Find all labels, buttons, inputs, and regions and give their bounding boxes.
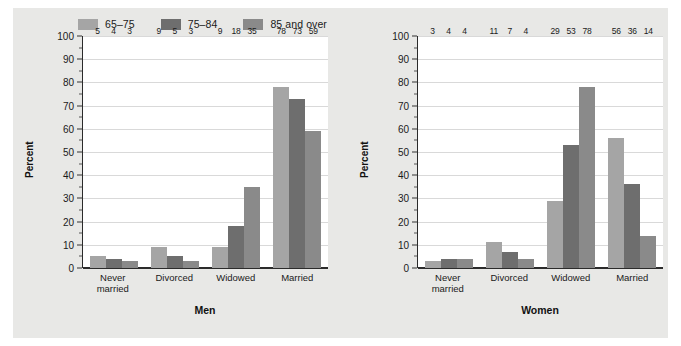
bar-group: 295378 [547,36,595,268]
x-axis-label-line: Married [602,272,662,283]
bar[interactable]: 56 [608,138,624,268]
y-axis-tick-label: 40 [369,170,409,181]
bar[interactable]: 73 [289,99,305,268]
bar[interactable]: 4 [518,259,534,268]
legend-swatch-75-84 [161,19,181,30]
bar[interactable]: 3 [183,261,199,268]
bar[interactable]: 11 [486,242,502,268]
x-axis-tick-label: Married [267,272,327,294]
bar[interactable]: 5 [90,256,106,268]
bar-value-label: 36 [628,27,637,36]
x-axis-labels: NevermarriedDivorcedWidowedMarried [82,272,328,294]
bar-value-label: 35 [247,27,256,36]
y-axis-tick-label: 90 [34,54,74,65]
bar-wrapper: 3 [183,36,199,268]
y-axis-tick-label: 30 [369,193,409,204]
bar-value-label: 29 [550,27,559,36]
bar-value-label: 18 [231,27,240,36]
bar[interactable]: 29 [547,201,563,268]
bar-wrapper: 73 [289,36,305,268]
y-axis-tick-label: 70 [34,100,74,111]
plot-area: 3441174295378563614 [417,36,663,268]
bar[interactable]: 78 [579,87,595,268]
y-axis-tick-label: 50 [369,147,409,158]
bar-value-label: 4 [446,27,451,36]
y-axis-tick-label: 60 [34,123,74,134]
y-axis-tick-label: 80 [34,77,74,88]
x-axis-labels: NevermarriedDivorcedWidowedMarried [417,272,663,294]
bar-wrapper: 4 [457,36,473,268]
bar-wrapper: 5 [90,36,106,268]
bar-wrapper: 59 [305,36,321,268]
bar[interactable]: 7 [502,252,518,268]
bar-wrapper: 3 [425,36,441,268]
bar-wrapper: 56 [608,36,624,268]
bar-wrapper: 3 [122,36,138,268]
bar[interactable]: 3 [425,261,441,268]
bar-value-label: 3 [127,27,132,36]
chart-figure: 65–7575–8485 and over Percent01020304050… [0,0,681,346]
bar[interactable]: 78 [273,87,289,268]
bar-wrapper: 4 [518,36,534,268]
bar[interactable]: 35 [244,187,260,268]
x-axis-tick-label: Widowed [206,272,266,294]
bar-value-label: 3 [189,27,194,36]
bar[interactable]: 4 [457,259,473,268]
bar-value-label: 53 [566,27,575,36]
bar-value-label: 11 [489,27,498,36]
bar-wrapper: 29 [547,36,563,268]
bar-value-label: 9 [157,27,162,36]
bar-wrapper: 78 [579,36,595,268]
bar-value-label: 78 [277,27,286,36]
bar-groups: 3441174295378563614 [418,36,663,268]
x-axis-label-line: married [418,283,478,294]
bar[interactable]: 36 [624,184,640,268]
bar[interactable]: 9 [151,247,167,268]
bar[interactable]: 4 [441,259,457,268]
y-axis: 0102030405060708090100 [42,36,82,268]
y-axis-tick-label: 0 [34,263,74,274]
bar-value-label: 4 [462,27,467,36]
bar[interactable]: 59 [305,131,321,268]
bar-value-label: 4 [111,27,116,36]
y-axis-tick-label: 80 [369,77,409,88]
chart-panel-women: Percent010203040506070809010034411742953… [357,36,667,326]
bar-wrapper: 78 [273,36,289,268]
bar-wrapper: 53 [563,36,579,268]
bar[interactable]: 14 [640,236,656,268]
x-axis-label-line: Never [83,272,143,283]
bar[interactable]: 53 [563,145,579,268]
bar-group: 1174 [486,36,534,268]
bar[interactable]: 18 [228,226,244,268]
bar[interactable]: 4 [106,259,122,268]
bar-wrapper: 9 [151,36,167,268]
bar[interactable]: 3 [122,261,138,268]
bar-value-label: 3 [430,27,435,36]
bar-group: 91835 [212,36,260,268]
bar[interactable]: 9 [212,247,228,268]
bar-groups: 54395391835787359 [83,36,328,268]
bar-wrapper: 18 [228,36,244,268]
bar-value-label: 9 [218,27,223,36]
x-axis-label-line: Never [418,272,478,283]
bar-value-label: 78 [582,27,591,36]
bar[interactable]: 5 [167,256,183,268]
legend-item: 65–75 [78,18,135,30]
x-axis-tick-label: Nevermarried [418,272,478,294]
x-axis-label-line: Married [267,272,327,283]
y-axis-tick-label: 100 [369,31,409,42]
plot-area: 54395391835787359 [82,36,328,268]
bar-wrapper: 7 [502,36,518,268]
bar-group: 787359 [273,36,321,268]
bar-value-label: 73 [293,27,302,36]
panel-title: Men [82,304,328,316]
y-axis: 0102030405060708090100 [377,36,417,268]
bar-value-label: 5 [173,27,178,36]
y-axis-tick-label: 70 [369,100,409,111]
bar-value-label: 4 [524,27,529,36]
panel-title: Women [417,304,663,316]
y-axis-tick-label: 10 [369,239,409,250]
y-axis-tick-label: 40 [34,170,74,181]
bar-group: 344 [425,36,473,268]
x-axis-label-line: Widowed [206,272,266,283]
